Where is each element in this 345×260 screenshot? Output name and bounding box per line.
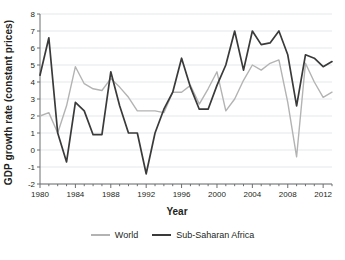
grid-lines [40, 14, 332, 184]
legend-line-sub-saharan-africa-icon [152, 234, 171, 236]
y-tick-label: 1 [31, 129, 36, 138]
legend-line-world-icon [91, 234, 110, 236]
x-tick-label: 2008 [279, 190, 297, 199]
y-axis-tick-labels: -2-1012345678 [28, 10, 36, 189]
y-tick-label: 7 [31, 27, 36, 36]
y-axis-title-text: GDP growth rate (constant prices) [4, 20, 15, 185]
legend-label-sub-saharan-africa: Sub-Saharan Africa [176, 230, 254, 240]
y-tick-label: 5 [31, 61, 36, 70]
legend-label-world: World [115, 230, 138, 240]
legend-item-world: World [91, 230, 138, 240]
x-tick-label: 2000 [208, 190, 226, 199]
gdp-growth-chart: GDP growth rate (constant prices) -2-101… [0, 0, 345, 260]
x-tick-label: 2004 [243, 190, 261, 199]
y-tick-label: -1 [28, 163, 36, 172]
legend-item-sub-saharan-africa: Sub-Saharan Africa [152, 230, 254, 240]
x-tick-label: 1980 [31, 190, 49, 199]
y-tick-label: 2 [31, 112, 36, 121]
x-tick-label: 1992 [137, 190, 155, 199]
y-tick-label: 6 [31, 44, 36, 53]
y-tick-label: -2 [28, 180, 36, 189]
y-tick-label: 8 [31, 10, 36, 19]
y-axis-title: GDP growth rate (constant prices) [0, 0, 18, 205]
chart-legend: World Sub-Saharan Africa [0, 230, 345, 240]
y-tick-label: 3 [31, 95, 36, 104]
x-tick-label: 1984 [66, 190, 84, 199]
y-tick-label: 4 [31, 78, 36, 87]
plot-area: -2-1012345678 19801984198819921996200020… [18, 8, 336, 208]
x-axis-ticks [40, 184, 332, 188]
y-tick-label: 0 [31, 146, 36, 155]
data-series [40, 31, 332, 174]
x-tick-label: 2012 [314, 190, 332, 199]
x-axis-title: Year [18, 206, 336, 217]
x-tick-label: 1996 [173, 190, 191, 199]
x-tick-label: 1988 [102, 190, 120, 199]
chart-svg: -2-1012345678 19801984198819921996200020… [18, 8, 336, 208]
x-axis-tick-labels: 198019841988199219962000200420082012 [31, 190, 332, 199]
